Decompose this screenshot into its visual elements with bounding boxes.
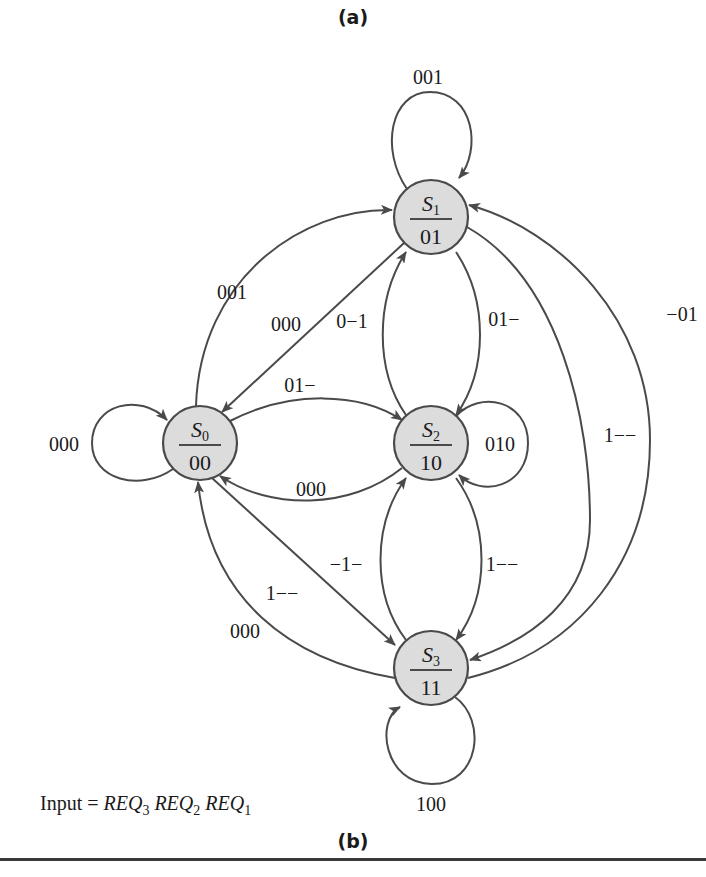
state-sub: 2 [433, 429, 440, 444]
edge-s1-s1 [392, 92, 472, 189]
label-s2-s3: 1−− [486, 553, 519, 575]
label-s1-s1: 001 [413, 66, 443, 88]
edge-s0-s0 [92, 405, 173, 481]
edge-s3-s3 [386, 697, 474, 784]
state-diagram: 001 000 010 100 001 000 01− 000 1−− 000 … [0, 0, 706, 877]
state-s2: S2 10 [394, 406, 468, 480]
state-s0: S0 00 [163, 406, 237, 480]
bottom-rule [0, 858, 706, 861]
label-s1-s2: 01− [488, 308, 519, 330]
label-s0-s2: 01− [284, 374, 315, 396]
edge-s2-s3 [456, 478, 482, 640]
edge-s3-s0 [198, 482, 395, 678]
figure-label-b: (b) [0, 830, 706, 852]
label-s3-s0: 000 [230, 620, 260, 642]
input-legend: Input = REQ3 REQ2 REQ1 [40, 792, 251, 818]
state-name: S [191, 417, 202, 442]
label-s3-s1: −01 [666, 303, 697, 325]
label-s0-s3: 1−− [266, 582, 299, 604]
state-name: S [422, 642, 433, 667]
label-s0-s0: 000 [49, 433, 79, 455]
edge-s3-s2 [381, 478, 407, 640]
state-sub: 0 [202, 429, 209, 444]
state-sub: 1 [433, 203, 440, 218]
state-s3: S3 11 [394, 631, 468, 705]
state-output: 01 [420, 224, 442, 249]
state-name: S [422, 417, 433, 442]
state-sub: 3 [433, 654, 440, 669]
label-s1-s3: 1−− [604, 424, 637, 446]
label-s1-s0: 000 [271, 313, 301, 335]
state-s1: S1 01 [394, 180, 468, 254]
edge-s2-s1 [383, 252, 406, 415]
label-s0-s1: 001 [217, 281, 247, 303]
edge-s1-s2 [456, 252, 480, 415]
state-name: S [422, 191, 433, 216]
state-output: 00 [189, 450, 211, 475]
label-s2-s2: 010 [485, 433, 515, 455]
state-output: 11 [420, 675, 441, 700]
edge-s0-s2 [230, 398, 402, 421]
label-s3-s3: 100 [416, 793, 446, 815]
label-s2-s1: 0−1 [336, 310, 367, 332]
label-s2-s0: 000 [296, 478, 326, 500]
label-s3-s2: −1− [330, 553, 363, 575]
state-output: 10 [420, 450, 442, 475]
